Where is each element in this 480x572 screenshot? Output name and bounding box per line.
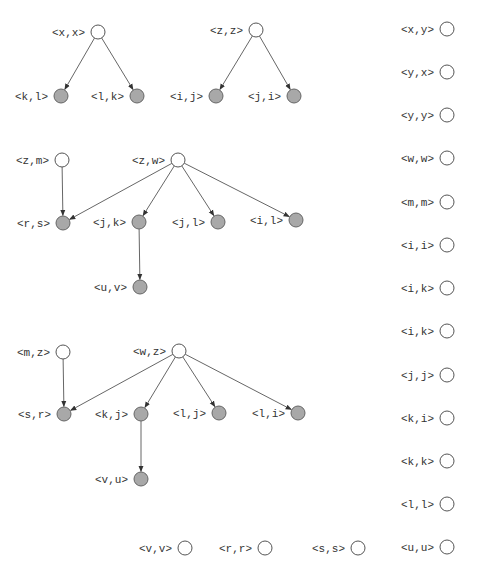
node-label: <r,s> [17,218,50,230]
node-label: <w,z> [133,346,166,358]
graph-node: <z,w> [132,153,185,167]
graph-node: <z,z> [210,23,263,37]
graph-node: <y,x> [401,65,454,79]
empty-node-icon [351,541,365,555]
graph-node: <u,v> [94,280,147,294]
node-label: <l,i> [252,408,285,420]
node-label: <s,s> [312,543,345,555]
node-label: <u,u> [401,542,434,554]
node-label: <j,l> [172,217,205,229]
edge-zw-il [184,163,289,216]
edge-zw-rs [70,163,172,219]
empty-node-icon [440,454,454,468]
empty-node-icon [440,281,454,295]
graph-node: <m,m> [401,195,454,209]
filled-node-icon [130,89,144,103]
node-layer: <x,x><k,l><l,k><z,z><i,j><j,i><z,m><z,w>… [15,22,454,555]
graph-node: <w,w> [401,151,454,165]
edge-mz-sr [63,359,64,407]
graph-node: <x,y> [401,22,454,36]
empty-node-icon [440,368,454,382]
graph-node: <j,k> [93,215,146,229]
graph-node: <s,s> [312,541,365,555]
node-label: <i,k> [401,283,434,295]
node-label: <z,w> [132,155,165,167]
empty-node-icon [91,25,105,39]
node-label: <i,k> [401,326,434,338]
node-label: <k,l> [15,91,48,103]
node-label: <k,k> [401,456,434,468]
graph-node: <k,j> [95,407,148,421]
empty-node-icon [440,22,454,36]
node-label: <x,x> [52,27,85,39]
empty-node-icon [440,108,454,122]
empty-node-icon [258,541,272,555]
empty-node-icon [55,153,69,167]
empty-node-icon [440,238,454,252]
filled-node-icon [209,89,223,103]
graph-node: <w,z> [133,344,186,358]
empty-node-icon [440,411,454,425]
node-label: <i,j> [170,91,203,103]
filled-node-icon [287,89,301,103]
edge-wz-lj [183,357,215,407]
graph-node: <i,j> [170,89,223,103]
filled-node-icon [56,216,70,230]
node-label: <v,v> [139,543,172,555]
graph-node: <i,k> [401,324,454,338]
empty-node-icon [440,324,454,338]
node-label: <l,j> [173,408,206,420]
graph-node: <m,z> [17,345,70,359]
node-label: <w,w> [401,153,434,165]
graph-node: <v,v> [139,541,192,555]
edge-zm-rs [62,167,63,216]
filled-node-icon [211,215,225,229]
graph-diagram: <x,x><k,l><l,k><z,z><i,j><j,i><z,m><z,w>… [0,0,480,572]
empty-node-icon [440,195,454,209]
filled-node-icon [134,407,148,421]
empty-node-icon [56,345,70,359]
node-label: <u,v> [94,282,127,294]
node-label: <z,z> [210,25,243,37]
edge-zw-jk [143,166,174,216]
node-label: <j,j> [401,370,434,382]
node-label: <v,u> [95,474,128,486]
graph-node: <l,k> [91,89,144,103]
node-label: <y,y> [401,110,434,122]
empty-node-icon [249,23,263,37]
filled-node-icon [212,406,226,420]
edge-zz-ji [259,36,290,89]
empty-node-icon [440,65,454,79]
node-label: <r,r> [219,543,252,555]
node-label: <k,i> [401,413,434,425]
graph-node: <i,l> [250,213,303,227]
graph-node: <z,m> [16,153,69,167]
empty-node-icon [178,541,192,555]
graph-node: <v,u> [95,472,148,486]
node-label: <x,y> [401,24,434,36]
edge-wz-li [185,354,291,409]
graph-node: <k,k> [401,454,454,468]
node-label: <j,k> [93,217,126,229]
graph-node: <j,j> [401,368,454,382]
graph-node: <i,k> [401,281,454,295]
node-label: <m,z> [17,347,50,359]
node-label: <j,i> [248,91,281,103]
graph-node: <j,l> [172,215,225,229]
graph-node: <u,u> [401,540,454,554]
graph-node: <i,i> [401,238,454,252]
filled-node-icon [54,89,68,103]
edge-zw-jl [182,166,214,216]
filled-node-icon [132,215,146,229]
filled-node-icon [291,406,305,420]
filled-node-icon [133,280,147,294]
filled-node-icon [289,213,303,227]
node-label: <i,l> [250,215,283,227]
node-label: <i,i> [401,240,434,252]
node-label: <l,k> [91,91,124,103]
node-label: <m,m> [401,197,434,209]
graph-node: <j,i> [248,89,301,103]
empty-node-icon [440,497,454,511]
graph-node: <l,j> [173,406,226,420]
empty-node-icon [440,540,454,554]
